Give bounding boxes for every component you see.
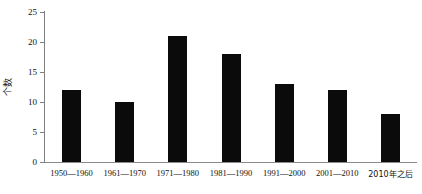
bar: [168, 36, 187, 162]
bar: [222, 54, 241, 162]
x-axis-label: 1950—1960: [50, 168, 93, 178]
y-tick-label: 15: [28, 67, 37, 77]
bar-chart: 个数 0510152025 1950—19601961—19701971—198…: [0, 0, 422, 194]
y-axis-title: 个数: [0, 62, 16, 110]
y-tick-label: 10: [28, 97, 37, 107]
x-axis-label: 1991—2000: [263, 168, 306, 178]
y-tick-label: 5: [33, 127, 38, 137]
plot-area: 0510152025: [45, 12, 417, 162]
x-axis-label: 1961—1970: [103, 168, 146, 178]
y-tick-mark: [40, 42, 45, 43]
x-axis-label: 2010年之后: [368, 168, 412, 179]
y-tick-mark: [40, 162, 45, 163]
x-axis-label: 1971—1980: [157, 168, 200, 178]
y-tick-label: 25: [28, 7, 37, 17]
x-axis-line: [44, 162, 417, 163]
y-tick-mark: [40, 12, 45, 13]
y-tick-mark: [40, 132, 45, 133]
y-tick-label: 0: [33, 157, 38, 167]
bar: [381, 114, 400, 162]
x-axis-label-group: 1950—19601961—19701971—19801981—19901991…: [45, 168, 417, 188]
y-tick-mark: [40, 102, 45, 103]
bar: [328, 90, 347, 162]
y-tick-label: 20: [28, 37, 37, 47]
bar: [275, 84, 294, 162]
bar: [115, 102, 134, 162]
y-tick-mark: [40, 72, 45, 73]
x-axis-label: 1981—1990: [210, 168, 253, 178]
y-axis-title-text: 个数: [4, 77, 13, 95]
x-axis-label: 2001—2010: [316, 168, 359, 178]
bar: [62, 90, 81, 162]
